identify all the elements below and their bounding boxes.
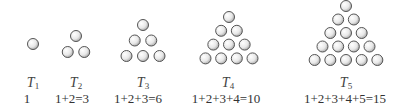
dot-icon bbox=[239, 39, 250, 50]
dot-triangle-t1 bbox=[28, 39, 39, 50]
formula-t4: 1+2+3+4=10 bbox=[192, 91, 260, 107]
dot-icon bbox=[28, 39, 39, 50]
formula-t5: 1+2+3+4+5=15 bbox=[304, 91, 386, 107]
dot-icon bbox=[333, 14, 344, 25]
dot-icon bbox=[216, 25, 227, 36]
dot-triangle-t2 bbox=[62, 31, 90, 58]
dot-icon bbox=[341, 55, 352, 66]
dot-icon bbox=[325, 55, 336, 66]
dot-icon bbox=[231, 25, 242, 36]
dot-icon bbox=[62, 47, 73, 58]
dot-icon bbox=[79, 47, 90, 58]
dot-icon bbox=[356, 55, 367, 66]
dot-icon bbox=[154, 51, 165, 62]
dot-icon bbox=[138, 20, 149, 31]
formula-t1: 1 bbox=[24, 91, 31, 107]
dot-icon bbox=[216, 53, 227, 64]
dot-icon bbox=[138, 51, 149, 62]
dot-icon bbox=[341, 28, 352, 39]
dot-triangle-t5 bbox=[309, 1, 383, 66]
formula-t3: 1+2+3=6 bbox=[114, 91, 162, 107]
dot-icon bbox=[71, 31, 82, 42]
dot-icon bbox=[309, 55, 320, 66]
dot-icon bbox=[364, 41, 375, 52]
label-t5: T5 bbox=[340, 75, 352, 91]
dot-triangle-t4 bbox=[200, 12, 258, 64]
formula-t2: 1+2=3 bbox=[55, 91, 89, 107]
dot-icon bbox=[208, 39, 219, 50]
dot-icon bbox=[348, 14, 359, 25]
dot-icon bbox=[224, 12, 235, 23]
label-t2: T2 bbox=[70, 75, 82, 91]
dot-icon bbox=[325, 28, 336, 39]
dot-icon bbox=[247, 53, 258, 64]
dot-icon bbox=[146, 35, 157, 46]
label-t4: T4 bbox=[222, 75, 234, 91]
dot-icon bbox=[341, 1, 352, 12]
dot-icon bbox=[224, 39, 235, 50]
dot-icon bbox=[333, 41, 344, 52]
dot-icon bbox=[121, 51, 132, 62]
label-t3: T3 bbox=[137, 75, 149, 91]
dot-icon bbox=[348, 41, 359, 52]
dot-icon bbox=[129, 35, 140, 46]
dot-icon bbox=[317, 41, 328, 52]
dot-icon bbox=[372, 55, 383, 66]
dot-icon bbox=[356, 28, 367, 39]
dot-icon bbox=[200, 53, 211, 64]
label-t1: T1 bbox=[27, 75, 39, 91]
dot-icon bbox=[231, 53, 242, 64]
dot-triangle-t3 bbox=[121, 20, 165, 62]
